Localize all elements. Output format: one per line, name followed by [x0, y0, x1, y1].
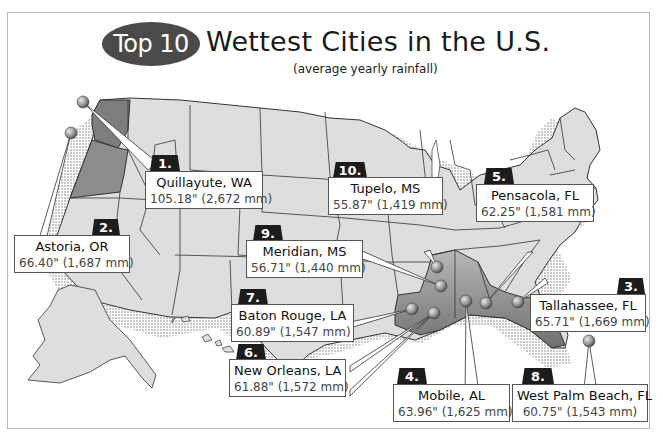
city-name: Meridian, MS	[251, 243, 358, 260]
city-rainfall: 65.71" (1,669 mm)	[535, 314, 641, 330]
label-meridian: Meridian, MS 56.71" (1,440 mm)	[246, 240, 363, 278]
city-rainfall: 60.89" (1,547 mm)	[236, 324, 349, 340]
pin-tallahassee	[512, 296, 524, 308]
city-name: New Orleans, LA	[234, 362, 341, 379]
label-baton-rouge: Baton Rouge, LA 60.89" (1,547 mm)	[231, 304, 354, 342]
rank-badge-2: 2.	[92, 219, 120, 235]
rank-badge-9: 9.	[253, 225, 283, 241]
label-astoria: Astoria, OR 66.40" (1,687 mm)	[14, 235, 130, 273]
pin-baton-rouge	[406, 303, 418, 315]
label-tupelo: Tupelo, MS 55.87" (1,419 mm)	[328, 177, 443, 215]
city-rainfall: 61.88" (1,572 mm)	[234, 379, 341, 395]
label-new-orleans: New Orleans, LA 61.88" (1,572 mm)	[229, 359, 346, 397]
rank-badge-3: 3.	[617, 278, 645, 294]
pin-new-orleans	[428, 307, 440, 319]
pin-quillayute	[77, 96, 89, 108]
rank-badge-5: 5.	[484, 168, 514, 184]
city-name: Mobile, AL	[398, 387, 505, 404]
city-name: Tupelo, MS	[333, 180, 438, 197]
city-rainfall: 66.40" (1,687 mm)	[19, 255, 125, 271]
pin-pensacola	[480, 297, 492, 309]
pin-tupelo	[431, 261, 443, 273]
city-rainfall: 56.71" (1,440 mm)	[251, 260, 358, 276]
city-rainfall: 63.96" (1,625 mm)	[398, 404, 505, 420]
city-name: Pensacola, FL	[481, 187, 589, 204]
label-pensacola: Pensacola, FL 62.25" (1,581 mm)	[476, 184, 594, 222]
city-rainfall: 55.87" (1,419 mm)	[333, 197, 438, 213]
rank-badge-8: 8.	[522, 368, 554, 384]
rank-badge-4: 4.	[397, 368, 427, 384]
rank-badge-7: 7.	[238, 289, 268, 305]
city-name: Baton Rouge, LA	[236, 307, 349, 324]
pin-meridian	[435, 280, 447, 292]
pin-astoria	[65, 127, 77, 139]
city-rainfall: 62.25" (1,581 mm)	[481, 204, 589, 220]
city-name: Quillayute, WA	[150, 174, 258, 191]
city-rainfall: 60.75" (1,543 mm)	[517, 404, 643, 420]
label-mobile: Mobile, AL 63.96" (1,625 mm)	[393, 384, 510, 422]
label-tallahassee: Tallahassee, FL 65.71" (1,669 mm)	[530, 294, 646, 332]
label-west-palm-beach: West Palm Beach, FL 60.75" (1,543 mm)	[512, 384, 648, 422]
city-rainfall: 105.18" (2,672 mm)	[150, 191, 258, 207]
city-name: Tallahassee, FL	[535, 297, 641, 314]
rank-badge-6: 6.	[236, 344, 266, 360]
label-quillayute: Quillayute, WA 105.18" (2,672 mm)	[145, 171, 263, 209]
city-name: West Palm Beach, FL	[517, 387, 643, 404]
pin-mobile	[460, 295, 472, 307]
city-name: Astoria, OR	[19, 238, 125, 255]
rank-badge-1: 1.	[150, 155, 180, 171]
rank-badge-10: 10.	[333, 162, 367, 178]
pin-west-palm-beach	[583, 335, 595, 347]
